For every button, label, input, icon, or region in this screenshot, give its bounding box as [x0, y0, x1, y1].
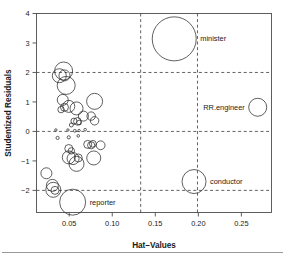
data-point: [67, 129, 69, 131]
data-point: [77, 135, 80, 138]
label-reporter: reporter: [90, 198, 116, 207]
x-axis-ticks: 0.050.100.150.200.25: [62, 213, 249, 228]
x-tick-label: 0.05: [62, 219, 76, 228]
y-tick-label: 1: [25, 98, 29, 107]
data-point: [70, 102, 83, 115]
data-point: [87, 151, 101, 165]
scatter-plot-canvas: ministerRR.engineerconductorreporter 0.0…: [0, 0, 285, 256]
x-tick-label: 0.10: [105, 219, 119, 228]
x-axis-title: Hat–Values: [132, 241, 176, 250]
data-point: [57, 76, 75, 94]
influence-plot-figure: ministerRR.engineerconductorreporter 0.0…: [0, 0, 285, 256]
data-point: [69, 123, 73, 127]
data-point: [73, 129, 76, 132]
data-point: [55, 129, 57, 131]
label-conductor: conductor: [210, 177, 243, 186]
data-point: [63, 100, 75, 112]
data-point-minister: [152, 17, 196, 61]
data-point: [41, 168, 52, 179]
data-point: [89, 140, 96, 147]
y-tick-label: 4: [25, 9, 29, 18]
y-axis-ticks: −2−101234: [21, 9, 36, 195]
x-tick-label: 0.20: [191, 219, 205, 228]
point-annotations: ministerRR.engineerconductorreporter: [90, 34, 246, 206]
data-point: [46, 179, 58, 191]
data-point: [96, 141, 105, 150]
data-point: [84, 128, 87, 131]
data-point: [56, 136, 59, 139]
y-tick-label: 3: [25, 39, 29, 48]
label-rr-engineer: RR.engineer: [203, 103, 245, 112]
data-point-conductor: [182, 170, 206, 194]
y-axis-title: Studentized Residuals: [4, 69, 13, 157]
data-point: [78, 129, 80, 131]
x-tick-label: 0.15: [148, 219, 162, 228]
data-point-rr-engineer: [249, 98, 267, 116]
x-tick-label: 0.25: [234, 219, 248, 228]
y-tick-label: −2: [21, 186, 29, 195]
y-tick-label: −1: [21, 157, 29, 166]
y-tick-label: 0: [25, 127, 29, 136]
label-minister: minister: [200, 34, 226, 43]
data-point: [87, 93, 103, 109]
data-point-reporter: [60, 189, 86, 215]
data-point: [67, 136, 70, 139]
y-tick-label: 2: [25, 68, 29, 77]
